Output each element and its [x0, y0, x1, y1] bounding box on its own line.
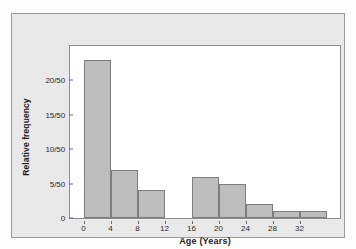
x-axis-tick-mark: [219, 221, 220, 224]
histogram-bar: [84, 60, 111, 218]
y-axis-tick-mark: [69, 149, 73, 150]
x-axis-tick-label: 24: [241, 224, 250, 233]
x-axis-tick-label: 4: [108, 224, 112, 233]
y-axis-title: Relative frequency: [21, 98, 31, 175]
y-axis-tick-label: 15/50: [45, 110, 65, 119]
y-axis-tick-label: 10/50: [45, 145, 65, 154]
x-axis-tick-label: 16: [187, 224, 196, 233]
y-axis-tick-label: 0: [61, 214, 65, 223]
histogram-bar: [300, 211, 327, 218]
x-axis-tick-label: 28: [268, 224, 277, 233]
x-axis-tick-label: 32: [295, 224, 304, 233]
y-axis-tick-label: 20/50: [45, 76, 65, 85]
x-axis-tick-label: 12: [160, 224, 169, 233]
x-axis-tick-mark: [246, 221, 247, 224]
histogram-bar: [219, 184, 246, 218]
x-axis-title: Age (Years): [69, 236, 341, 246]
x-axis-tick-mark: [300, 221, 301, 224]
x-axis-tick-mark: [273, 221, 274, 224]
y-axis-tick-mark: [69, 183, 73, 184]
y-axis-tick-label: 5/50: [50, 179, 65, 188]
bars-container: [70, 46, 340, 218]
x-axis-tick-mark: [138, 221, 139, 224]
histogram-bar: [192, 177, 219, 218]
histogram-bar: [138, 190, 165, 218]
histogram-bar: [273, 211, 300, 218]
chart-figure: 05/5010/5015/5020/50 048121620242832 Rel…: [0, 0, 356, 249]
x-axis-tick-mark: [111, 221, 112, 224]
histogram-bar: [111, 170, 138, 218]
y-axis-tick-mark: [69, 114, 73, 115]
x-axis-tick-label: 8: [135, 224, 139, 233]
figure-panel: 05/5010/5015/5020/50 048121620242832 Rel…: [11, 13, 345, 238]
x-axis-tick-label: 0: [81, 224, 85, 233]
histogram-bar: [246, 204, 273, 218]
x-axis-tick-mark: [165, 221, 166, 224]
x-axis-tick-mark: [84, 221, 85, 224]
y-axis-tick-mark: [69, 80, 73, 81]
plot-area: [69, 45, 341, 219]
y-axis-tick-mark: [69, 218, 73, 219]
x-axis-tick-mark: [192, 221, 193, 224]
x-axis-tick-label: 20: [214, 224, 223, 233]
x-axis-ticklabels: 048121620242832: [69, 221, 341, 235]
